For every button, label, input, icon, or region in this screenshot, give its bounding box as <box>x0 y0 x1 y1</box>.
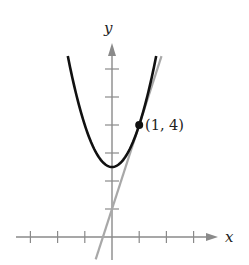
x-axis-arrow-icon <box>206 233 218 241</box>
tangent-line <box>96 56 162 259</box>
chart: x y (1, 4) <box>0 0 249 265</box>
annotations <box>135 121 143 129</box>
plot-series <box>68 56 162 259</box>
y-axis-label: y <box>103 19 113 37</box>
x-axis-label: x <box>225 228 234 246</box>
point-marker <box>135 121 143 129</box>
axes <box>16 43 218 260</box>
point-label: (1, 4) <box>145 117 184 133</box>
y-axis-arrow-icon <box>108 43 116 56</box>
